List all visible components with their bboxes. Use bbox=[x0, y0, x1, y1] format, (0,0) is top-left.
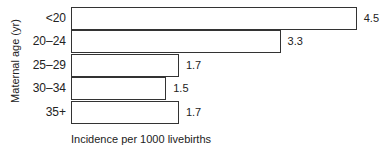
value-label: 4.5 bbox=[364, 12, 379, 24]
bar bbox=[71, 54, 179, 77]
x-axis-label: Incidence per 1000 livebirths bbox=[71, 133, 211, 145]
bar bbox=[71, 30, 281, 53]
category-label: 30–34 bbox=[30, 81, 66, 95]
value-label: 1.5 bbox=[173, 82, 188, 94]
category-label: 35+ bbox=[30, 105, 66, 119]
category-label: 20–24 bbox=[30, 34, 66, 48]
bar bbox=[71, 101, 179, 124]
value-label: 3.3 bbox=[288, 35, 303, 47]
y-axis-label: Maternal age (yr) bbox=[9, 16, 21, 106]
bar bbox=[71, 77, 166, 100]
value-label: 1.7 bbox=[186, 59, 201, 71]
category-label: <20 bbox=[30, 11, 66, 25]
bar bbox=[71, 7, 357, 30]
category-label: 25–29 bbox=[30, 58, 66, 72]
value-label: 1.7 bbox=[186, 106, 201, 118]
